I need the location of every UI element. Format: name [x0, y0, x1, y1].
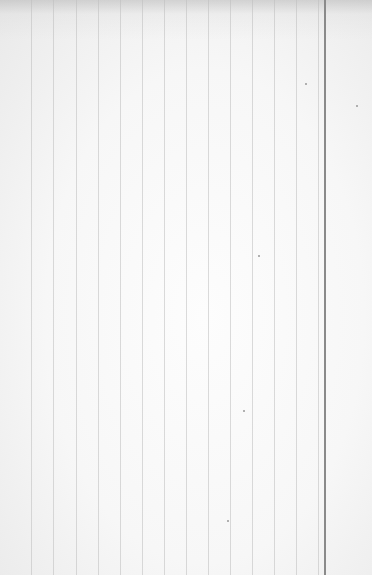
rule-line — [164, 0, 165, 575]
rule-line — [53, 0, 54, 575]
rule-line — [274, 0, 275, 575]
speck — [356, 105, 358, 107]
rule-line — [318, 0, 319, 575]
rule-line — [208, 0, 209, 575]
rule-line — [120, 0, 121, 575]
rule-line — [142, 0, 143, 575]
rule-line — [76, 0, 77, 575]
speck — [305, 83, 307, 85]
rule-line — [186, 0, 187, 575]
ruled-paper — [0, 0, 372, 575]
speck — [227, 520, 229, 522]
rule-line — [230, 0, 231, 575]
speck — [258, 255, 260, 257]
rule-line — [31, 0, 32, 575]
rule-line — [296, 0, 297, 575]
margin-line — [324, 0, 326, 575]
speck — [243, 410, 245, 412]
rule-line — [98, 0, 99, 575]
rule-line — [252, 0, 253, 575]
